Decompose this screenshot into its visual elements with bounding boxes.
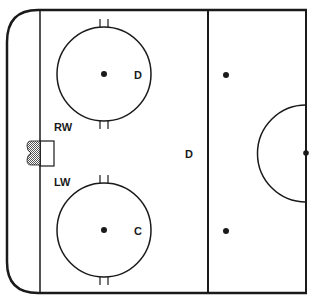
goal-crease <box>40 141 54 166</box>
label-point-defense: D <box>185 148 193 160</box>
goal-net-icon <box>27 141 40 165</box>
rink-boards <box>7 10 307 293</box>
faceoff-dot-bottom <box>101 227 107 233</box>
label-bottom-circle-player: C <box>134 225 142 237</box>
hockey-rink-diagram: D C RW LW D <box>0 0 314 299</box>
faceoff-dot-top <box>101 71 107 77</box>
label-left-wing: LW <box>54 176 71 188</box>
center-circle-arc <box>257 105 306 202</box>
neutral-zone-dot-bottom <box>223 228 229 234</box>
label-right-wing: RW <box>54 121 73 133</box>
neutral-zone-dot-top <box>223 72 229 78</box>
label-top-circle-player: D <box>134 69 142 81</box>
center-faceoff-dot <box>303 150 309 156</box>
